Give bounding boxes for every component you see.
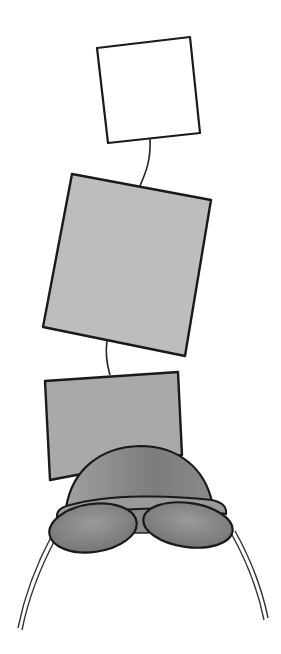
connector-middle-bottom <box>106 340 110 375</box>
diagram-canvas <box>0 0 281 654</box>
right-arc <box>231 531 268 620</box>
top-square <box>97 37 200 143</box>
connector-top-middle <box>140 139 150 186</box>
left-arc <box>18 535 56 630</box>
middle-square <box>43 174 211 356</box>
